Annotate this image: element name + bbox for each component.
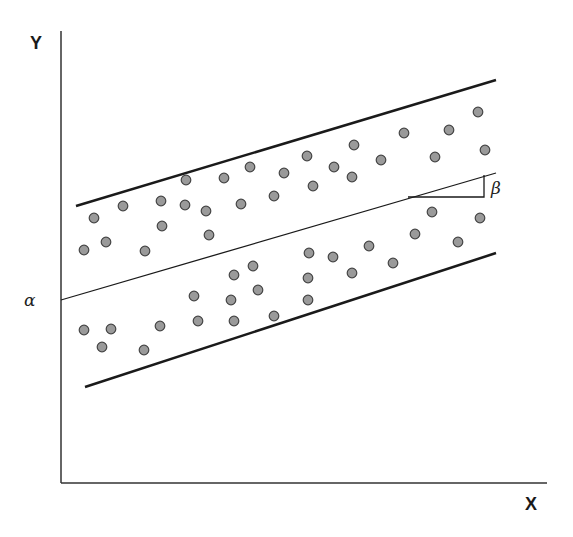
data-point <box>229 316 239 326</box>
data-point <box>155 321 165 331</box>
band-lines <box>61 80 496 387</box>
data-point <box>229 270 239 280</box>
data-point <box>181 175 191 185</box>
data-point <box>204 230 214 240</box>
x-axis-label: X <box>525 494 537 515</box>
data-point <box>226 295 236 305</box>
data-point <box>473 107 483 117</box>
data-point <box>279 168 289 178</box>
data-point <box>302 151 312 161</box>
data-point <box>376 155 386 165</box>
data-point <box>253 285 263 295</box>
data-point <box>79 325 89 335</box>
data-point <box>303 295 313 305</box>
slope-triangle-legs <box>408 175 484 197</box>
data-point <box>453 237 463 247</box>
lower-bound-line <box>85 253 496 387</box>
data-point <box>328 252 338 262</box>
data-point <box>180 200 190 210</box>
data-point <box>475 213 485 223</box>
data-point <box>97 342 107 352</box>
data-point <box>480 145 490 155</box>
data-point <box>236 199 246 209</box>
data-point <box>349 140 359 150</box>
upper-bound-line <box>76 80 496 206</box>
data-point <box>303 273 313 283</box>
plot-area <box>0 0 573 537</box>
data-point <box>269 191 279 201</box>
data-point <box>444 125 454 135</box>
data-point <box>329 162 339 172</box>
data-point <box>410 229 420 239</box>
data-point <box>304 248 314 258</box>
slope-triangle <box>408 175 484 197</box>
regression-diagram: Y X α β <box>0 0 573 537</box>
data-point <box>101 237 111 247</box>
beta-slope-label: β <box>491 178 501 198</box>
data-point <box>156 196 166 206</box>
data-point <box>399 128 409 138</box>
data-point <box>430 152 440 162</box>
data-point <box>427 207 437 217</box>
data-point <box>245 162 255 172</box>
data-point <box>118 201 128 211</box>
data-point <box>157 221 167 231</box>
data-point <box>248 261 258 271</box>
data-point <box>201 206 211 216</box>
data-point <box>106 324 116 334</box>
data-point <box>139 345 149 355</box>
data-point <box>308 181 318 191</box>
data-point <box>364 241 374 251</box>
data-point <box>219 173 229 183</box>
data-point <box>388 258 398 268</box>
data-point <box>347 268 357 278</box>
y-axis-label: Y <box>30 33 42 54</box>
data-point <box>140 246 150 256</box>
data-point <box>269 311 279 321</box>
data-point <box>189 291 199 301</box>
alpha-intercept-label: α <box>24 290 35 310</box>
data-point <box>193 316 203 326</box>
data-point <box>89 213 99 223</box>
data-point <box>79 245 89 255</box>
data-point <box>347 172 357 182</box>
